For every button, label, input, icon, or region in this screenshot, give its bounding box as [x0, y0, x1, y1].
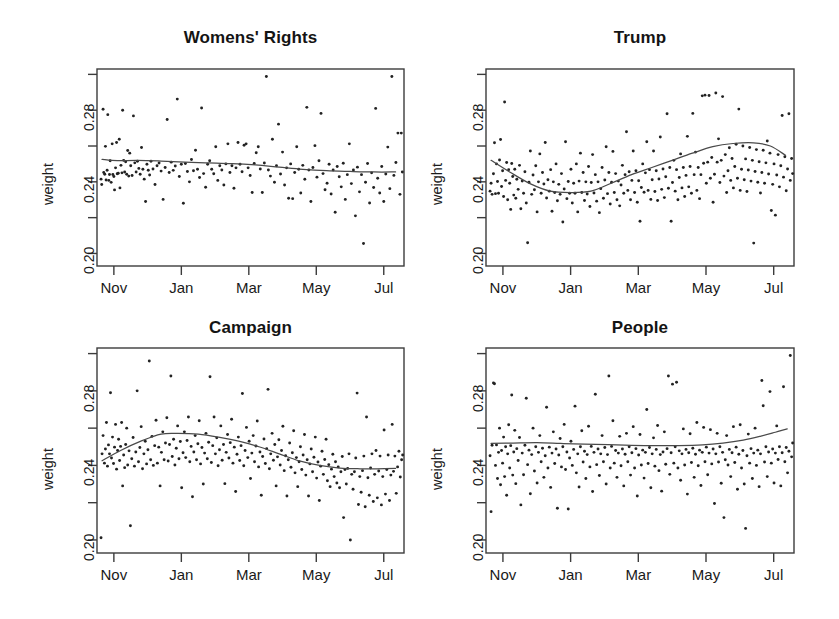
y-tick-label: 0.28	[81, 104, 97, 131]
scatter-points	[100, 75, 404, 245]
panel-womens-rights: Womens' Rights weight 0.200.240.28NovJan…	[0, 0, 839, 619]
scatter-points	[489, 354, 794, 530]
figure-canvas: Womens' Rights weight 0.200.240.28NovJan…	[0, 0, 839, 619]
x-tick-label: Nov	[84, 566, 144, 583]
x-tick-label: Jul	[744, 279, 804, 296]
x-tick-label: Jul	[744, 566, 804, 583]
y-axis-label: weight	[40, 163, 56, 205]
x-tick-label: Jan	[151, 279, 211, 296]
panel-people: People weight 0.200.240.28NovJanMarMayJu…	[0, 0, 839, 619]
panel-title: Trump	[426, 28, 839, 48]
plot-area	[0, 0, 839, 619]
x-tick-label: Jan	[541, 566, 601, 583]
panel-title: Womens' Rights	[37, 28, 464, 48]
x-tick-label: May	[676, 566, 736, 583]
x-tick-label: May	[286, 566, 346, 583]
x-tick-label: Jan	[541, 279, 601, 296]
x-tick-label: Jul	[354, 279, 414, 296]
x-tick-label: May	[676, 279, 736, 296]
x-tick-label: Nov	[473, 279, 533, 296]
plot-area	[0, 0, 839, 619]
y-tick-label: 0.28	[470, 104, 486, 131]
scatter-points	[489, 92, 794, 245]
x-tick-label: Mar	[219, 279, 279, 296]
panel-campaign: Campaign weight 0.200.240.28NovJanMarMay…	[0, 0, 839, 619]
x-tick-label: Mar	[608, 279, 668, 296]
trend-line	[102, 159, 396, 172]
scatter-points	[100, 360, 405, 542]
x-tick-label: Mar	[219, 566, 279, 583]
y-tick-label: 0.24	[470, 176, 486, 203]
trend-line	[491, 429, 787, 446]
cropped-caption	[60, 604, 780, 617]
y-tick-label: 0.24	[81, 459, 97, 486]
x-tick-label: Jul	[354, 566, 414, 583]
plot-area	[0, 0, 839, 619]
plot-area	[0, 0, 839, 619]
y-tick-label: 0.20	[81, 534, 97, 561]
y-tick-label: 0.24	[470, 459, 486, 486]
panel-trump: Trump weight 0.200.240.28NovJanMarMayJul	[0, 0, 839, 619]
y-tick-label: 0.20	[81, 247, 97, 274]
y-tick-label: 0.24	[81, 176, 97, 203]
trend-line	[491, 143, 785, 193]
y-tick-label: 0.28	[81, 385, 97, 412]
panel-title: People	[426, 318, 839, 338]
x-tick-label: Nov	[473, 566, 533, 583]
x-tick-label: Jan	[151, 566, 211, 583]
x-tick-label: Nov	[84, 279, 144, 296]
y-axis-label: weight	[40, 448, 56, 490]
y-tick-label: 0.20	[470, 247, 486, 274]
y-axis-label: weight	[429, 163, 445, 205]
y-tick-label: 0.28	[470, 385, 486, 412]
panel-title: Campaign	[37, 318, 464, 338]
y-axis-label: weight	[429, 448, 445, 490]
x-tick-label: Mar	[608, 566, 668, 583]
y-tick-label: 0.20	[470, 534, 486, 561]
x-tick-label: May	[286, 279, 346, 296]
trend-line	[102, 433, 396, 469]
